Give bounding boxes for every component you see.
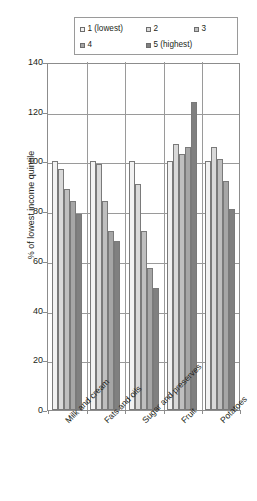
chart-plot-area (47, 63, 240, 411)
legend-label-4: 4 (88, 40, 93, 50)
y-tick-mark-120 (43, 113, 47, 114)
y-tick-label-120: 120 (0, 107, 43, 117)
legend-item-3: 3 (194, 24, 206, 34)
group-separator (125, 62, 126, 410)
legend-item-4: 4 (80, 40, 146, 50)
x-tick-mark (202, 410, 203, 414)
legend-row-1: 1 (lowest) 2 3 (80, 21, 232, 37)
bar (76, 214, 82, 410)
legend-item-5: 5 (highest) (146, 40, 192, 50)
group-separator (164, 62, 165, 410)
legend-swatch-icon-3 (194, 27, 199, 32)
legend-swatch-icon-1 (80, 27, 85, 32)
x-tick-mark (240, 410, 241, 414)
y-tick-label-20: 20 (0, 355, 43, 365)
y-tick-mark-100 (43, 162, 47, 163)
chart-legend: 1 (lowest) 2 3 4 5 (highest) (74, 17, 238, 55)
legend-swatch-icon-2 (146, 27, 151, 32)
y-tick-label-0: 0 (0, 405, 43, 415)
bar (114, 241, 120, 410)
bar (153, 288, 159, 410)
legend-row-2: 4 5 (highest) (80, 37, 232, 53)
y-tick-mark-60 (43, 262, 47, 263)
y-tick-label-140: 140 (0, 57, 43, 67)
bar-group (124, 64, 162, 410)
y-axis-title: % of lowest income quintile (26, 100, 36, 310)
x-tick-mark (125, 410, 126, 414)
y-tick-label-100: 100 (0, 156, 43, 166)
x-tick-mark (164, 410, 165, 414)
bar-group (48, 64, 86, 410)
group-separator (202, 62, 203, 410)
legend-swatch-icon-5 (146, 43, 151, 48)
y-tick-label-40: 40 (0, 306, 43, 316)
y-tick-mark-140 (43, 63, 47, 64)
group-separator (87, 62, 88, 410)
legend-label-3: 3 (202, 24, 207, 34)
y-tick-mark-40 (43, 312, 47, 313)
legend-label-2: 2 (154, 24, 159, 34)
bar-group (86, 64, 124, 410)
legend-item-1: 1 (lowest) (80, 24, 146, 34)
y-tick-label-80: 80 (0, 206, 43, 216)
y-tick-label-60: 60 (0, 256, 43, 266)
legend-label-5: 5 (highest) (154, 40, 193, 50)
legend-swatch-icon-4 (80, 43, 85, 48)
y-tick-mark-80 (43, 212, 47, 213)
y-tick-mark-0 (43, 411, 47, 412)
y-tick-mark-20 (43, 361, 47, 362)
x-tick-mark (87, 410, 88, 414)
bar-group (163, 64, 201, 410)
bar-groups (48, 64, 239, 410)
legend-label-1: 1 (lowest) (88, 24, 124, 34)
x-tick-mark (48, 410, 49, 414)
bar-group (201, 64, 239, 410)
legend-item-2: 2 (146, 24, 194, 34)
bar (229, 209, 235, 410)
